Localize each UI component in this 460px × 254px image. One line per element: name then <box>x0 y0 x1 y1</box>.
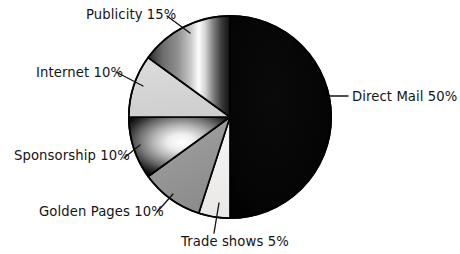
slice-label-sponsorship: Sponsorship 10% <box>14 148 130 163</box>
pie-chart-canvas: Direct Mail 50%Trade shows 5%Golden Page… <box>0 0 460 254</box>
slice-label-trade-shows: Trade shows 5% <box>180 234 289 249</box>
pie-slice-direct-mail[interactable] <box>230 16 331 218</box>
slice-label-internet: Internet 10% <box>36 65 123 80</box>
pie-chart-figure: Direct Mail 50%Trade shows 5%Golden Page… <box>0 0 460 254</box>
pie-slices-group <box>129 16 331 218</box>
slice-label-publicity: Publicity 15% <box>86 7 176 22</box>
slice-label-golden-pages: Golden Pages 10% <box>39 204 164 219</box>
slice-label-direct-mail: Direct Mail 50% <box>352 89 457 104</box>
